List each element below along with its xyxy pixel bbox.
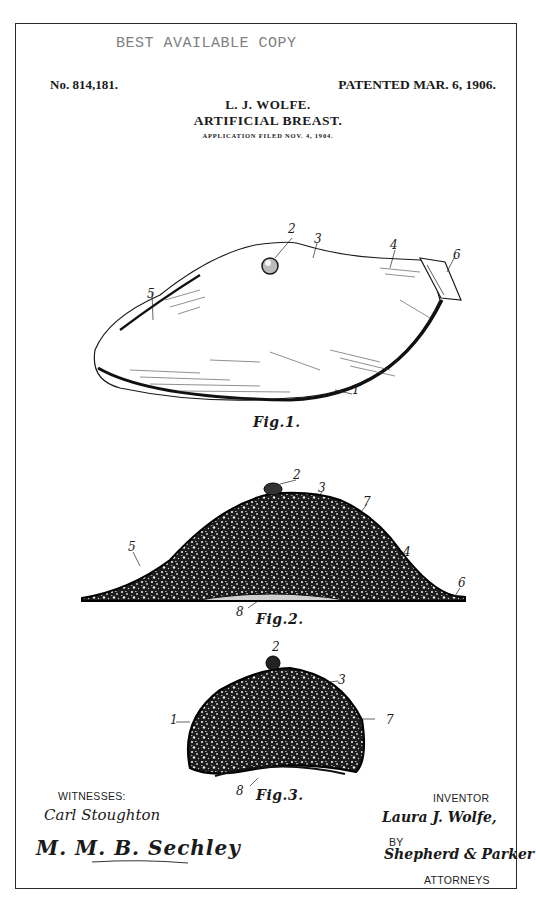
fig3-ref-8: 8 — [236, 784, 244, 798]
figure-1-drawing — [94, 238, 461, 400]
figure-2-label: Fig.2. — [256, 611, 304, 627]
fig1-ref-5: 5 — [147, 287, 155, 301]
inventor-label: INVENTOR — [433, 792, 489, 804]
signature-underline — [90, 858, 190, 866]
fig2-ref-8: 8 — [236, 605, 244, 619]
fig1-ref-2: 2 — [288, 222, 296, 236]
fig3-ref-7: 7 — [386, 713, 394, 727]
fig3-ref-2: 2 — [272, 640, 280, 654]
inventor-signature: Laura J. Wolfe, — [382, 809, 497, 825]
fig2-ref-3: 3 — [318, 481, 326, 495]
witness-1-signature: Carl Stoughton — [44, 806, 160, 824]
fig2-ref-2: 2 — [293, 468, 301, 482]
attorney-signature: Shepherd & Parker — [384, 846, 534, 862]
fig3-ref-3: 3 — [338, 673, 346, 687]
fig2-ref-6: 6 — [458, 576, 466, 590]
figure-2-drawing — [82, 480, 465, 608]
fig2-ref-5: 5 — [128, 540, 136, 554]
patent-drawings — [0, 0, 536, 918]
figure-3-label: Fig.3. — [256, 787, 304, 803]
witness-2-signature: M. M. B. Sechley — [36, 836, 241, 860]
fig1-ref-4: 4 — [390, 238, 398, 252]
fig2-ref-7: 7 — [363, 495, 371, 509]
figure-1-label: Fig.1. — [253, 414, 301, 430]
fig1-ref-3: 3 — [314, 232, 322, 246]
attorneys-label: ATTORNEYS — [424, 874, 490, 886]
fig3-ref-1: 1 — [170, 713, 178, 727]
fig1-ref-6: 6 — [453, 248, 461, 262]
fig2-ref-4: 4 — [403, 545, 411, 559]
fig1-ref-1: 1 — [352, 383, 360, 397]
witnesses-label: WITNESSES: — [58, 790, 126, 802]
